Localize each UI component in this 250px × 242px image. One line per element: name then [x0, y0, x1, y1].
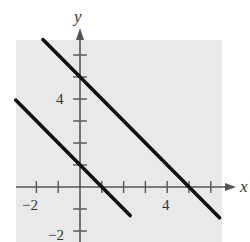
x-axis-arrow-icon: [225, 183, 236, 191]
y-axis-label: y: [72, 7, 82, 26]
y-axis-arrow-icon: [76, 28, 84, 40]
chart: x y −2 4 4 −2: [0, 0, 250, 242]
x-tick-label-neg2: −2: [22, 197, 38, 213]
x-tick-label-4: 4: [162, 197, 170, 213]
y-tick-label-4: 4: [56, 91, 64, 107]
y-tick-label-neg2: −2: [48, 227, 64, 242]
plot-background: [16, 40, 222, 242]
x-axis-label: x: [239, 177, 248, 196]
